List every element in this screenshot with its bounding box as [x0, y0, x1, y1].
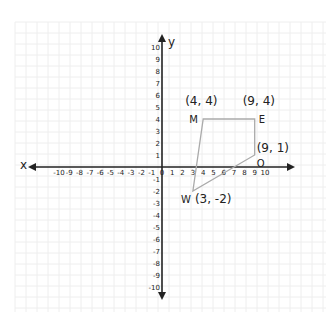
vertex-name-o: O [257, 158, 265, 169]
x-tick-label: 8 [242, 169, 246, 177]
y-tick-label: -2 [153, 188, 160, 196]
x-tick-label: -10 [53, 169, 64, 177]
y-tick-label: 8 [156, 68, 160, 76]
y-tick-label: 10 [151, 44, 160, 52]
x-tick-label: -7 [86, 169, 93, 177]
x-tick-label: -6 [97, 169, 105, 177]
y-tick-label: 1 [156, 152, 160, 160]
x-tick-label: 10 [261, 169, 270, 177]
y-tick-label: 5 [156, 104, 160, 112]
y-tick-label: -6 [153, 236, 161, 244]
y-tick-label: -8 [153, 260, 160, 268]
vertex-coord-w: (3, -2) [195, 192, 232, 206]
vertex-name-m: M [189, 114, 198, 125]
coordinate-plane: xy -10-9-8-7-6-5-4-3-2-1012345678910 109… [0, 0, 336, 324]
y-tick-labels: 10987654321-1-2-3-4-5-6-7-8-9-10 [149, 44, 161, 292]
vertex-name-e: E [259, 114, 265, 125]
y-tick-label: -9 [153, 272, 160, 280]
x-tick-label: -4 [117, 169, 125, 177]
x-axis-right-arrow-icon [287, 163, 295, 171]
x-axis-label: x [20, 158, 27, 172]
x-tick-label: -9 [66, 169, 73, 177]
y-tick-label: -7 [153, 248, 160, 256]
x-tick-label: -8 [76, 169, 83, 177]
x-tick-label: 4 [201, 169, 206, 177]
y-tick-label: 6 [156, 92, 161, 100]
y-axis-label: y [168, 35, 175, 49]
x-tick-label: 1 [170, 169, 174, 177]
y-tick-label: -5 [153, 224, 160, 232]
y-tick-label: 7 [156, 80, 160, 88]
y-tick-label: 9 [156, 56, 160, 64]
x-tick-label: -5 [107, 169, 114, 177]
y-tick-label: 3 [156, 128, 160, 136]
x-tick-label: 2 [180, 169, 184, 177]
vertex-name-w: W [181, 194, 191, 205]
x-tick-label: 9 [252, 169, 256, 177]
y-tick-label: -1 [153, 176, 160, 184]
vertex-coord-o: (9, 1) [257, 141, 289, 155]
x-tick-label: 7 [232, 169, 236, 177]
vertex-coord-m: (4, 4) [185, 94, 217, 108]
x-tick-label: -3 [128, 169, 135, 177]
y-axis-down-arrow-icon [158, 292, 166, 300]
vertex-coord-e: (9, 4) [243, 94, 275, 108]
x-tick-label: 0 [160, 169, 164, 177]
x-tick-label: -2 [138, 169, 145, 177]
y-tick-label: 4 [156, 116, 161, 124]
x-axis-left-arrow-icon [28, 163, 36, 171]
x-tick-label: 5 [211, 169, 215, 177]
y-tick-label: -10 [149, 284, 160, 292]
y-tick-label: -4 [153, 212, 161, 220]
y-tick-label: -3 [153, 200, 160, 208]
y-tick-label: 2 [156, 140, 160, 148]
y-axis-up-arrow-icon [158, 34, 166, 42]
